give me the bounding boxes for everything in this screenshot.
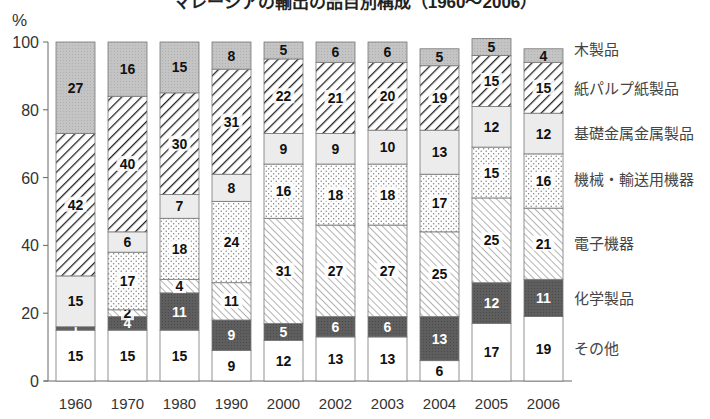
value-label: 21	[536, 236, 552, 252]
bar-2000: 125311692252000	[264, 42, 303, 412]
value-label: 4	[176, 278, 184, 294]
y-tick-label: 80	[21, 102, 39, 119]
x-tick-label: 2002	[319, 395, 352, 412]
value-label: 30	[172, 136, 188, 152]
bar-1970: 154217640161970	[108, 42, 147, 412]
bar-1960: 1511542271960	[56, 42, 95, 412]
y-unit-label: %	[12, 11, 27, 30]
x-tick-label: 2005	[475, 395, 508, 412]
bar-2004: 6132517131952004	[420, 49, 459, 412]
legend-item: 化学製品	[574, 290, 634, 307]
bar-2005: 17122515121552005	[472, 39, 511, 412]
value-label: 25	[432, 266, 448, 282]
value-label: 12	[276, 353, 292, 369]
value-label: 11	[224, 293, 239, 309]
value-label: 12	[484, 119, 500, 135]
value-label: 13	[432, 144, 448, 160]
value-label: 16	[276, 183, 292, 199]
value-label: 11	[172, 304, 187, 320]
value-label: 6	[384, 319, 392, 335]
value-label: 21	[328, 90, 344, 106]
value-label: 5	[280, 324, 288, 340]
value-label: 19	[432, 90, 448, 106]
value-label: 15	[484, 165, 500, 181]
value-label: 12	[484, 295, 500, 311]
x-tick-label: 2006	[527, 395, 560, 412]
value-label: 6	[124, 234, 132, 250]
value-label: 6	[332, 319, 340, 335]
value-label: 8	[228, 48, 236, 64]
value-label: 5	[280, 42, 288, 58]
value-label: 25	[484, 232, 500, 248]
value-label: 15	[536, 80, 552, 96]
bar-1980: 1511418730151980	[160, 42, 199, 412]
value-label: 12	[536, 126, 552, 142]
value-label: 15	[172, 59, 188, 75]
legend: その他化学製品電子機器機械・輸送用機器基礎金属金属製品紙パルプ紙製品木製品	[574, 41, 694, 357]
legend-item: 紙パルプ紙製品	[574, 80, 679, 97]
value-label: 15	[68, 293, 84, 309]
x-tick-label: 1970	[111, 395, 144, 412]
value-label: 6	[436, 363, 444, 379]
value-label: 15	[68, 348, 84, 364]
value-label: 17	[432, 195, 448, 211]
x-tick-label: 2003	[371, 395, 404, 412]
value-label: 9	[280, 141, 288, 157]
value-label: 9	[228, 327, 236, 343]
y-tick-label: 60	[21, 170, 39, 187]
value-label: 13	[380, 351, 396, 367]
value-label: 17	[484, 344, 500, 360]
value-label: 19	[536, 341, 552, 357]
bar-2002: 136271892162002	[316, 42, 355, 412]
value-label: 16	[120, 61, 136, 77]
x-tick-label: 1980	[163, 395, 196, 412]
y-tick-label: 0	[30, 373, 39, 390]
value-label: 5	[436, 49, 444, 65]
value-label: 15	[120, 348, 136, 364]
value-label: 31	[224, 114, 240, 130]
value-label: 6	[332, 44, 340, 60]
x-tick-label: 2004	[423, 395, 456, 412]
legend-item: 木製品	[574, 41, 619, 58]
value-label: 9	[332, 141, 340, 157]
y-tick-label: 40	[21, 237, 39, 254]
value-label: 18	[328, 187, 344, 203]
x-tick-label: 2000	[267, 395, 300, 412]
value-label: 13	[328, 351, 344, 367]
value-label: 16	[536, 173, 552, 189]
value-label: 7	[176, 198, 184, 214]
bar-1990: 99112483181990	[212, 42, 251, 412]
legend-item: 電子機器	[574, 235, 634, 252]
legend-item: その他	[574, 340, 619, 357]
bar-2006: 19112116121542006	[524, 48, 563, 412]
value-label: 22	[276, 88, 292, 104]
value-label: 31	[276, 263, 292, 279]
value-label: 18	[172, 241, 188, 257]
value-label: 27	[380, 263, 396, 279]
value-label: 18	[380, 187, 396, 203]
bars: 1511542271960154217640161970151141873015…	[56, 39, 563, 412]
value-label: 15	[172, 348, 188, 364]
value-label: 6	[384, 44, 392, 60]
value-label: 17	[120, 273, 136, 289]
value-label: 42	[68, 197, 84, 213]
legend-item: 基礎金属金属製品	[574, 125, 694, 142]
value-label: 10	[380, 139, 396, 155]
value-label: 4	[540, 48, 548, 64]
value-label: 11	[536, 290, 551, 306]
legend-item: 機械・輸送用機器	[574, 171, 694, 188]
value-label: 24	[224, 234, 240, 250]
value-label: 9	[228, 358, 236, 374]
y-tick-label: 20	[21, 305, 39, 322]
value-label: 13	[432, 331, 448, 347]
value-label: 20	[380, 88, 396, 104]
x-tick-label: 1990	[215, 395, 248, 412]
value-label: 8	[228, 180, 236, 196]
bar-2003: 1362718102062003	[368, 42, 407, 412]
value-label: 27	[68, 80, 84, 96]
value-label: 27	[328, 263, 344, 279]
x-tick-label: 1960	[59, 395, 92, 412]
value-label: 5	[488, 39, 496, 55]
value-label: 40	[120, 156, 136, 172]
y-tick-label: 100	[12, 34, 39, 51]
